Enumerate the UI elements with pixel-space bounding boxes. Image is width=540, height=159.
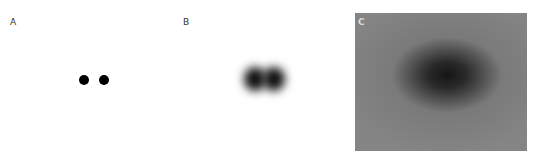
right-dot: [99, 75, 109, 85]
panel-b-label: B: [183, 17, 189, 27]
panel-a-label: A: [10, 17, 16, 27]
left-dot: [79, 75, 89, 85]
panel-c-label: C: [358, 17, 365, 27]
panel-c: C: [355, 13, 527, 151]
blurred-dot-right: [263, 67, 285, 91]
panel-c-vignette: [355, 13, 527, 151]
